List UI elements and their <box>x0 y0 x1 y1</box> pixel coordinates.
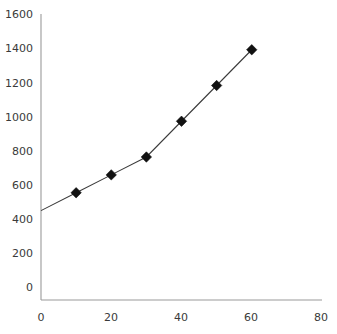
y-tick-label-0: 0 <box>26 281 33 294</box>
x-tick-label-60: 60 <box>244 311 258 324</box>
series-line <box>41 50 252 211</box>
series-markers <box>71 45 257 198</box>
y-tick-label-200: 200 <box>12 247 33 260</box>
data-point-marker <box>71 188 81 198</box>
y-tick-label-1000: 1000 <box>5 111 33 124</box>
line-chart: 1600 1400 1200 1000 800 600 400 200 0 0 … <box>0 0 337 334</box>
y-tick-label-400: 400 <box>12 213 33 226</box>
y-tick-label-1200: 1200 <box>5 77 33 90</box>
data-point-marker <box>106 170 116 180</box>
y-tick-label-1400: 1400 <box>5 42 33 55</box>
chart-canvas: 1600 1400 1200 1000 800 600 400 200 0 0 … <box>0 0 337 334</box>
y-tick-label-1600: 1600 <box>5 8 33 21</box>
x-tick-label-20: 20 <box>104 311 118 324</box>
y-tick-label-600: 600 <box>12 179 33 192</box>
x-tick-label-40: 40 <box>174 311 188 324</box>
x-tick-label-80: 80 <box>314 311 328 324</box>
x-tick-label-0: 0 <box>38 311 45 324</box>
y-tick-label-800: 800 <box>12 145 33 158</box>
